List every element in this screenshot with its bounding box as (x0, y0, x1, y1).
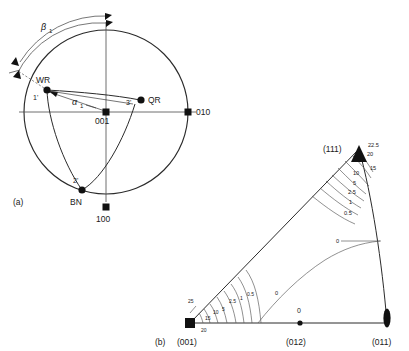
pole-marker-wr (43, 86, 50, 93)
pole-label-010: 010 (196, 107, 210, 117)
contour-label-zero-upper: 0 (336, 238, 339, 244)
corner-label-011: (011) (372, 337, 391, 347)
pole-label-100: 100 (96, 214, 110, 224)
panel-a: β 1 α 1 (9, 13, 210, 224)
contour-label-111-22p5: 22.5 (368, 142, 379, 148)
beta-arrow-head-top (105, 13, 112, 20)
contour-001-25-leader (190, 306, 196, 313)
pole-marker-bn (78, 186, 85, 193)
corner-marker-011 (383, 309, 390, 328)
contour-label-001-0p5: 0.5 (247, 291, 254, 297)
figure-svg: β 1 α 1 (0, 0, 409, 351)
point-label-012-value: 0 (297, 307, 301, 314)
triangle-edge-001-111 (190, 149, 359, 323)
pole-label-wr: WR (36, 75, 50, 85)
corner-marker-111 (351, 145, 367, 162)
contour-label-zero-lower: 0 (275, 290, 278, 296)
panel-b-label: (b) (155, 337, 166, 347)
pole-label-qr: QR (148, 95, 161, 105)
contour-label-001-1: 1 (240, 295, 243, 301)
corner-marker-001 (185, 318, 195, 328)
figure-root: β 1 α 1 (0, 0, 409, 351)
contour-label-001-10: 10 (213, 309, 219, 315)
trace-label-2: 2' (73, 177, 78, 184)
beta-arrow-head-top2 (106, 20, 113, 27)
corner-label-012: (012) (286, 337, 306, 347)
pole-marker-qr (137, 96, 144, 103)
trace-label-3: 3' (126, 99, 131, 106)
contour-label-111-10: 10 (353, 170, 359, 176)
trace-label-1: 1' (33, 94, 38, 101)
pole-label-001: 001 (95, 116, 109, 126)
alpha-leader-line (86, 105, 96, 108)
corner-marker-012 (297, 320, 302, 325)
pole-marker-010 (185, 109, 192, 116)
triangle-edge-111-011 (359, 149, 387, 323)
pole-label-bn: BN (70, 197, 82, 207)
pole-marker-100 (103, 204, 110, 211)
contour-label-111-1: 1 (349, 199, 352, 205)
contour-label-111-0p5: 0.5 (344, 210, 352, 216)
contour-zero-upper (258, 241, 380, 323)
contour-label-001-5: 5 (222, 306, 225, 312)
contour-label-111-15: 15 (370, 165, 376, 171)
contour-label-001-2p5: 2.5 (229, 298, 236, 304)
contour-label-001-15: 15 (205, 315, 211, 321)
contour-label-111-5: 5 (353, 180, 356, 186)
contour-001-25 (199, 313, 203, 323)
panel-a-label: (a) (13, 197, 24, 207)
angle-alpha-label: α (72, 97, 78, 107)
angle-beta-subscript: 1 (49, 28, 53, 34)
panel-b: (001) (012) (011) (111) 22.5 20 15 10 5 … (155, 142, 391, 347)
contour-label-001-20: 20 (201, 327, 207, 333)
contour-label-111-2p5: 2.5 (348, 189, 356, 195)
corner-label-111: (111) (323, 144, 342, 154)
beta-arrow-head-bottom2 (11, 57, 19, 66)
contour-label-001-25: 25 (188, 298, 194, 304)
angle-beta-label: β (40, 22, 46, 32)
pole-marker-001 (103, 109, 110, 116)
contour-label-111-20: 20 (367, 151, 373, 157)
corner-label-001: (001) (177, 337, 197, 347)
